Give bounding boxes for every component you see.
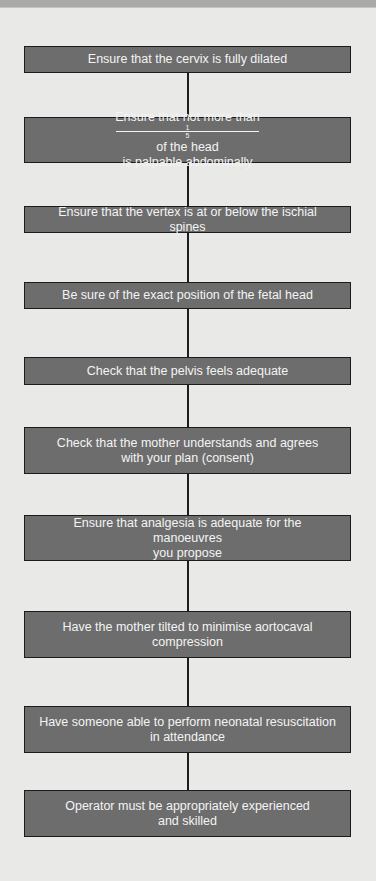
step-text-line2: is palpable abdominally — [115, 155, 260, 170]
connector-5-6 — [187, 384, 189, 428]
step-10-operator-experienced: Operator must be appropriately experienc… — [24, 790, 351, 837]
step-text-line2: with your plan (consent) — [57, 451, 318, 466]
connector-9-10 — [187, 752, 189, 791]
step-text-line1: Check that the mother understands and ag… — [57, 436, 318, 451]
step-text-line2: you propose — [39, 546, 336, 561]
step-text: Ensure that the cervix is fully dilated — [88, 52, 287, 67]
step-text-line1: Have someone able to perform neonatal re… — [39, 715, 336, 730]
step-text: Ensure that the vertex is at or below th… — [39, 205, 336, 235]
step-text: Check that the pelvis feels adequate — [87, 364, 289, 379]
step-7-analgesia: Ensure that analgesia is adequate for th… — [24, 515, 351, 561]
step-8-mother-tilted: Have the mother tilted to minimise aorto… — [24, 611, 351, 658]
step-text-line1: Have the mother tilted to minimise aorto… — [62, 620, 312, 635]
connector-3-4 — [187, 232, 189, 283]
step-5-pelvis-adequate: Check that the pelvis feels adequate — [24, 357, 351, 385]
step-6-consent: Check that the mother understands and ag… — [24, 427, 351, 474]
step-4-fetal-head-position: Be sure of the exact position of the fet… — [24, 282, 351, 309]
step-text-line1: Ensure that analgesia is adequate for th… — [39, 516, 336, 546]
step-text-line1: Operator must be appropriately experienc… — [65, 799, 310, 814]
step-text-line2: in attendance — [39, 730, 336, 745]
step-text: Be sure of the exact position of the fet… — [62, 288, 313, 303]
step-text-line1: Ensure that not more than 1 5 of the hea… — [115, 110, 260, 155]
step-2-head-palpable: Ensure that not more than 1 5 of the hea… — [24, 117, 351, 163]
step-1-cervix-dilated: Ensure that the cervix is fully dilated — [24, 46, 351, 73]
top-border-strip — [0, 0, 376, 8]
connector-4-5 — [187, 308, 189, 358]
step-text-line2: and skilled — [65, 814, 310, 829]
step-3-vertex-position: Ensure that the vertex is at or below th… — [24, 206, 351, 233]
fraction-one-fifth: 1 5 — [116, 124, 259, 139]
connector-8-9 — [187, 657, 189, 707]
step-text-line2: compression — [62, 635, 312, 650]
step-9-neonatal-resuscitation: Have someone able to perform neonatal re… — [24, 706, 351, 753]
connector-6-7 — [187, 473, 189, 516]
connector-7-8 — [187, 560, 189, 612]
